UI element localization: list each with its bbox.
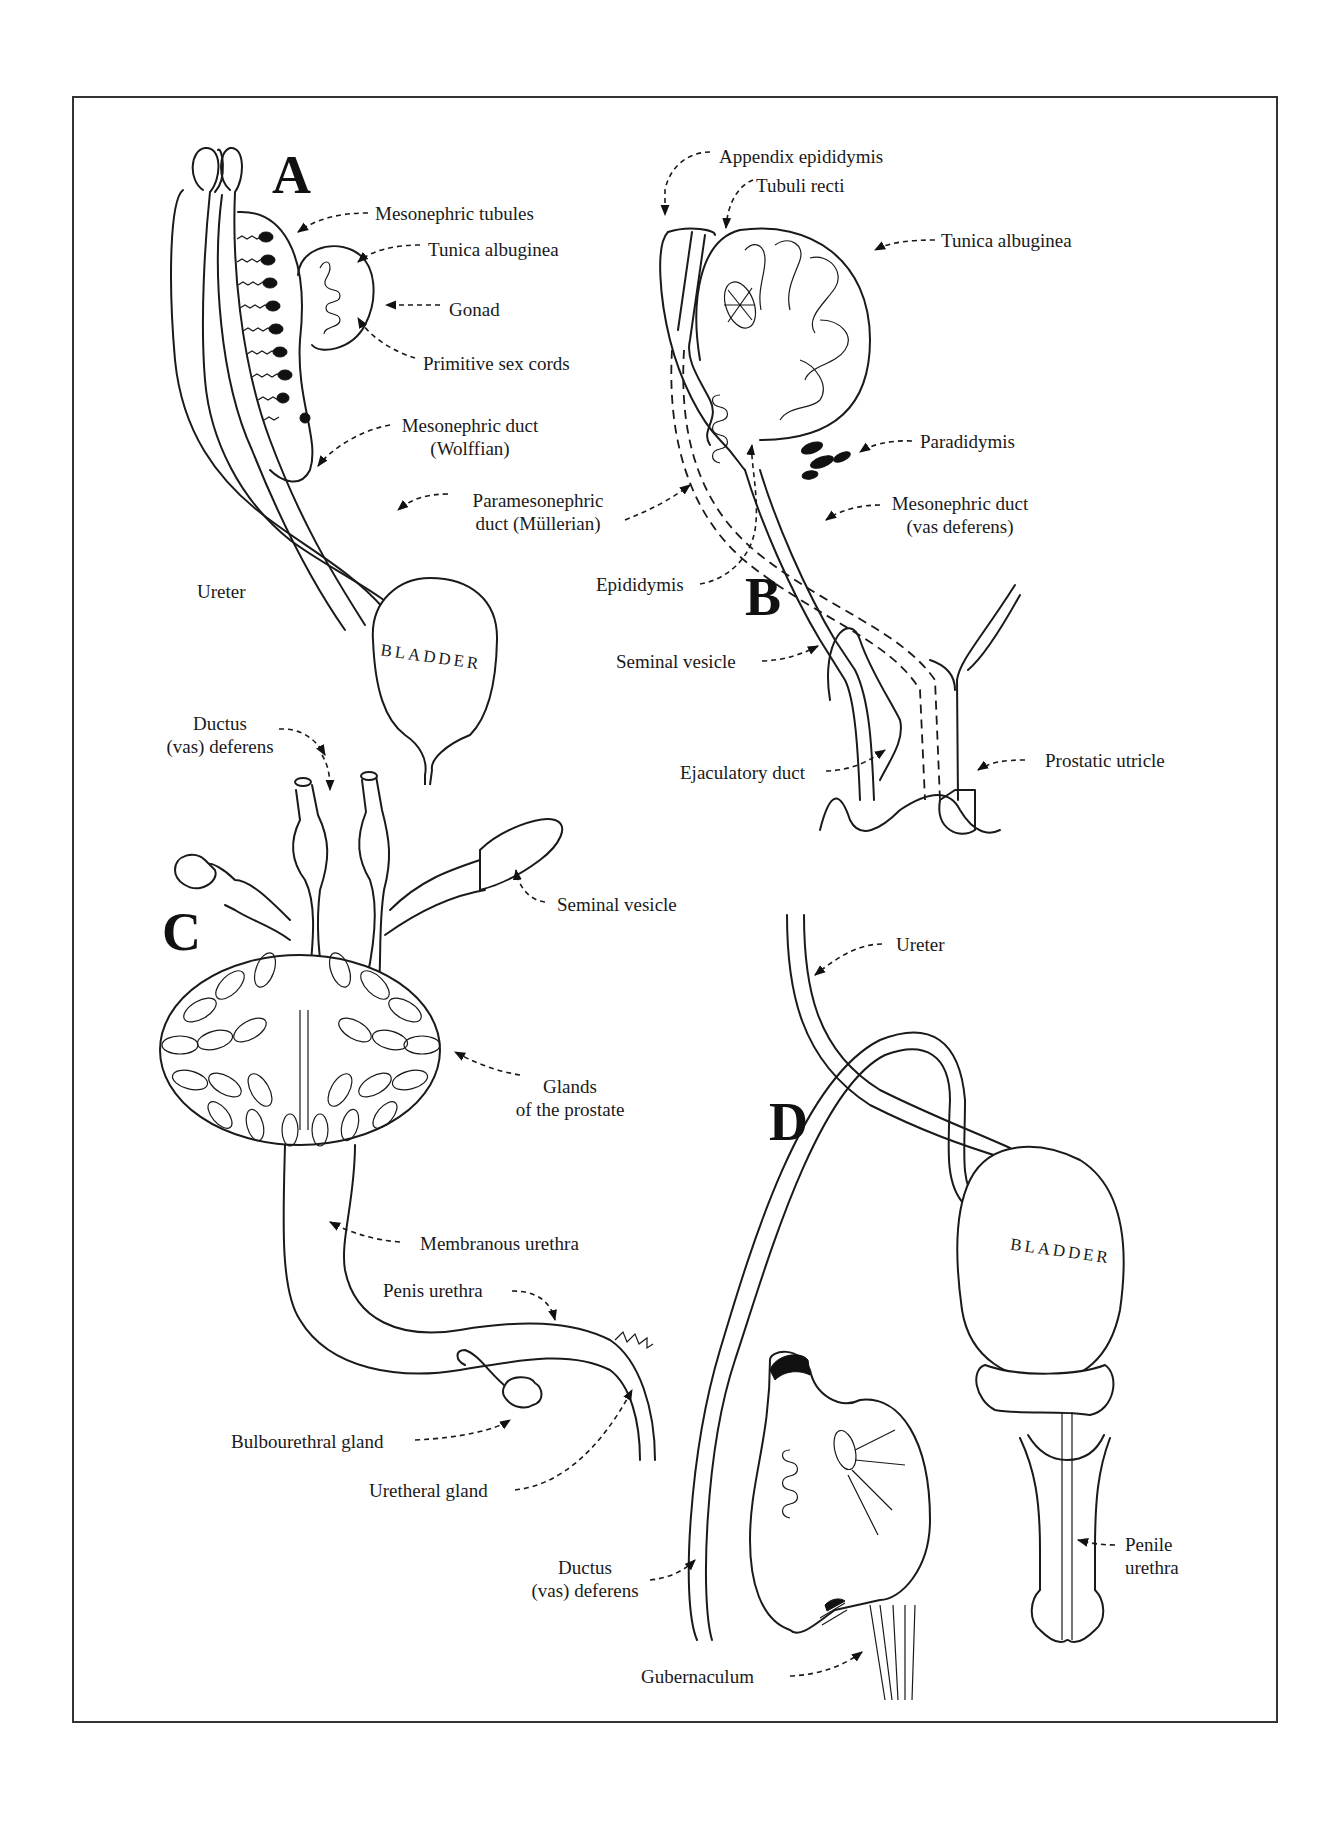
label-ureter-d: Ureter xyxy=(896,933,945,956)
panel-label-b: B xyxy=(745,570,781,624)
label-penile-urethra: Penile urethra xyxy=(1125,1533,1179,1579)
label-epididymis: Epididymis xyxy=(596,573,684,596)
label-tunica-albuginea-a: Tunica albuginea xyxy=(428,238,559,261)
panel-label-c: C xyxy=(162,905,201,959)
label-ductus-deferens-c: Ductus (vas) deferens xyxy=(155,712,285,758)
label-ureter-a: Ureter xyxy=(197,580,246,603)
label-mesonephric-tubules: Mesonephric tubules xyxy=(375,202,534,225)
label-penile-urethra-line1: Penile xyxy=(1125,1533,1179,1556)
panel-label-d: D xyxy=(769,1095,808,1149)
label-glands-prostate-line1: Glands xyxy=(495,1075,645,1098)
label-seminal-vesicle-c: Seminal vesicle xyxy=(557,893,677,916)
label-membranous-urethra: Membranous urethra xyxy=(420,1232,579,1255)
label-gonad: Gonad xyxy=(449,298,500,321)
label-mesonephric-duct-a-line2: (Wolffian) xyxy=(395,437,545,460)
label-uretheral-gland: Uretheral gland xyxy=(369,1479,488,1502)
label-paramesonephric-duct-line1: Paramesonephric xyxy=(458,489,618,512)
mesonephric-tubules-icon xyxy=(237,232,310,423)
label-gubernaculum: Gubernaculum xyxy=(641,1665,754,1688)
label-glands-prostate-line2: of the prostate xyxy=(495,1098,645,1121)
panel-label-a: A xyxy=(272,148,311,202)
label-ductus-deferens-d-line2: (vas) deferens xyxy=(515,1579,655,1602)
label-prostatic-utricle: Prostatic utricle xyxy=(1045,749,1165,772)
label-mesonephric-duct-b-line2: (vas deferens) xyxy=(875,515,1045,538)
label-appendix-epididymis: Appendix epididymis xyxy=(719,145,883,168)
label-paramesonephric-duct: Paramesonephric duct (Müllerian) xyxy=(458,489,618,535)
label-ductus-deferens-c-line2: (vas) deferens xyxy=(155,735,285,758)
label-primitive-sex-cords: Primitive sex cords xyxy=(423,352,570,375)
label-mesonephric-duct-b-line1: Mesonephric duct xyxy=(875,492,1045,515)
label-paradidymis: Paradidymis xyxy=(920,430,1015,453)
label-glands-prostate: Glands of the prostate xyxy=(495,1075,645,1121)
label-bulbourethral-gland: Bulbourethral gland xyxy=(231,1430,384,1453)
label-ductus-deferens-c-line1: Ductus xyxy=(155,712,285,735)
label-ductus-deferens-d-line1: Ductus xyxy=(515,1556,655,1579)
label-ductus-deferens-d: Ductus (vas) deferens xyxy=(515,1556,655,1602)
prostate-glands-icon xyxy=(160,950,440,1146)
label-penile-urethra-line2: urethra xyxy=(1125,1556,1179,1579)
label-mesonephric-duct-a-line1: Mesonephric duct xyxy=(395,414,545,437)
label-tubuli-recti: Tubuli recti xyxy=(756,174,845,197)
label-ejaculatory-duct: Ejaculatory duct xyxy=(680,761,805,784)
gonad-outline xyxy=(298,246,374,350)
label-mesonephric-duct-b: Mesonephric duct (vas deferens) xyxy=(875,492,1045,538)
label-paramesonephric-duct-line2: duct (Müllerian) xyxy=(458,512,618,535)
label-seminal-vesicle-b: Seminal vesicle xyxy=(616,650,736,673)
label-mesonephric-duct-a: Mesonephric duct (Wolffian) xyxy=(395,414,545,460)
label-penis-urethra: Penis urethra xyxy=(383,1279,483,1302)
label-tunica-albuginea-b: Tunica albuginea xyxy=(941,229,1072,252)
panel-d-drawing: BLADDER xyxy=(650,915,1124,1700)
anatomy-figure: BLADDER xyxy=(0,0,1343,1825)
